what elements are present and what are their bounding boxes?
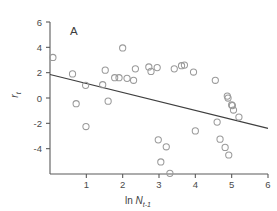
panel-label: A: [70, 25, 78, 37]
y-tick-label: 4: [37, 42, 42, 53]
x-axis-ticks: 123456: [84, 174, 271, 190]
data-point: [120, 45, 126, 51]
x-tick-label: 3: [156, 179, 161, 190]
x-axis-title-subscript: t-1: [143, 201, 151, 208]
x-axis-title: ln Nt-1: [125, 195, 151, 208]
data-point: [167, 170, 173, 176]
axes: [50, 22, 268, 174]
y-tick-label: 0: [37, 93, 42, 104]
x-tick-label: 6: [265, 179, 270, 190]
y-axis-title-subscript: t: [15, 91, 22, 94]
y-tick-label: 2: [37, 67, 42, 78]
y-axis-title: rt: [9, 91, 22, 97]
chart-canvas: -4-20246 123456 A ln Nt-1 rt: [0, 0, 277, 211]
x-axis-title-prefix: ln: [125, 195, 136, 206]
data-point: [217, 136, 223, 142]
regression-line: [50, 75, 268, 129]
data-point: [102, 67, 108, 73]
data-point: [236, 114, 242, 120]
data-point: [226, 152, 232, 158]
data-point: [154, 65, 160, 71]
data-point: [83, 123, 89, 129]
svg-text:ln Nt-1: ln Nt-1: [125, 195, 151, 208]
data-point: [116, 75, 122, 81]
x-tick-label: 5: [229, 179, 234, 190]
data-point: [158, 159, 164, 165]
data-point: [130, 77, 136, 83]
x-tick-label: 4: [193, 179, 198, 190]
y-axis-ticks: -4-20246: [34, 17, 50, 155]
data-point: [100, 82, 106, 88]
y-tick-label: -4: [34, 143, 42, 154]
data-point: [124, 75, 130, 81]
data-point: [190, 69, 196, 75]
data-point: [171, 66, 177, 72]
data-point: [69, 71, 75, 77]
data-point: [50, 54, 56, 60]
regression-line-group: [50, 75, 268, 129]
data-point: [192, 128, 198, 134]
x-tick-label: 1: [84, 179, 89, 190]
data-point: [222, 144, 228, 150]
x-tick-label: 2: [120, 179, 125, 190]
data-point: [73, 101, 79, 107]
data-point: [212, 77, 218, 83]
svg-text:rt: rt: [9, 91, 22, 97]
data-point: [163, 144, 169, 150]
scatter-plot-figure: -4-20246 123456 A ln Nt-1 rt: [0, 0, 277, 211]
y-tick-label: 6: [37, 17, 42, 28]
y-tick-label: -2: [34, 118, 42, 129]
data-points-group: [50, 45, 242, 177]
data-point: [214, 119, 220, 125]
data-point: [155, 137, 161, 143]
data-point: [105, 98, 111, 104]
data-point: [132, 66, 138, 72]
